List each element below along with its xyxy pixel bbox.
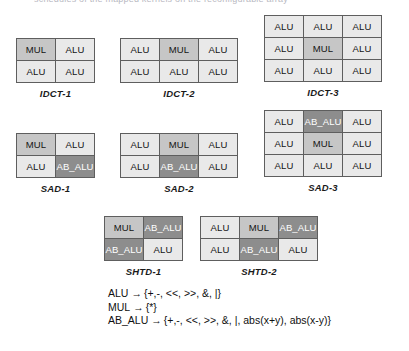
legend-line-0: ALU→{+,-, <<, >>, &, |} — [108, 287, 331, 301]
legend-ops-1: {*} — [146, 301, 157, 313]
group-shtd-1: MULAB_ALUAB_ALUALU SHTD-1 — [104, 216, 183, 277]
cell-idct-3-7: ALU — [304, 60, 342, 81]
cropped-caption-sliver: schedules of the mapped kernels on the r… — [34, 0, 334, 5]
caption-shtd-1: SHTD-1 — [104, 266, 183, 277]
cell-shtd-1-0: MUL — [105, 217, 143, 238]
matrix-idct-1: MULALUALUALU — [16, 38, 95, 83]
legend-name-1: MUL — [108, 301, 130, 313]
right-arrow-icon: → — [128, 287, 144, 299]
right-arrow-icon: → — [148, 314, 164, 326]
group-idct-2: ALUMULALUALUALUALU IDCT-2 — [120, 38, 238, 99]
matrix-idct-3: ALUALUALUALUMULALUALUALUALU — [264, 15, 382, 82]
cell-sad-2-2: ALU — [199, 134, 237, 155]
cell-idct-2-5: ALU — [199, 61, 237, 82]
group-sad-2: ALUMULALUALUAB_ALUALU SAD-2 — [120, 133, 238, 194]
cell-idct-3-4: MUL — [304, 38, 342, 59]
legend-line-1: MUL→{*} — [108, 301, 331, 315]
cell-idct-3-8: ALU — [343, 60, 381, 81]
cell-shtd-2-3: ALU — [201, 239, 239, 260]
caption-shtd-2: SHTD-2 — [200, 266, 318, 277]
cell-idct-3-0: ALU — [265, 16, 303, 37]
group-idct-3: ALUALUALUALUMULALUALUALUALU IDCT-3 — [264, 15, 382, 98]
cell-shtd-1-1: AB_ALU — [144, 217, 182, 238]
cell-idct-1-3: ALU — [56, 61, 94, 82]
matrix-shtd-2: ALUMULAB_ALUALUAB_ALUALU — [200, 216, 318, 261]
cell-sad-3-3: ALU — [265, 133, 303, 154]
cell-shtd-2-5: ALU — [279, 239, 317, 260]
cell-idct-2-3: ALU — [121, 61, 159, 82]
cell-idct-3-1: ALU — [304, 16, 342, 37]
caption-sad-2: SAD-2 — [120, 183, 238, 194]
legend-line-2: AB_ALU→{+,-, <<, >>, &, |, abs(x+y), abs… — [108, 314, 331, 328]
group-idct-1: MULALUALUALU IDCT-1 — [16, 38, 95, 99]
cell-idct-3-3: ALU — [265, 38, 303, 59]
cell-idct-3-2: ALU — [343, 16, 381, 37]
cell-idct-2-2: ALU — [199, 39, 237, 60]
cell-sad-3-2: ALU — [343, 111, 381, 132]
cell-shtd-2-0: ALU — [201, 217, 239, 238]
cell-sad-3-0: ALU — [265, 111, 303, 132]
group-shtd-2: ALUMULAB_ALUALUAB_ALUALU SHTD-2 — [200, 216, 318, 277]
cell-idct-1-1: ALU — [56, 39, 94, 60]
cell-shtd-2-1: MUL — [240, 217, 278, 238]
cell-shtd-1-3: ALU — [144, 239, 182, 260]
legend-ops-2: {+,-, <<, >>, &, |, abs(x+y), abs(x-y)} — [164, 314, 331, 326]
cell-sad-3-8: ALU — [343, 155, 381, 176]
cell-idct-2-4: ALU — [160, 61, 198, 82]
cell-sad-3-1: AB_ALU — [304, 111, 342, 132]
matrix-sad-2: ALUMULALUALUAB_ALUALU — [120, 133, 238, 178]
caption-sad-3: SAD-3 — [264, 182, 382, 193]
cell-sad-2-4: AB_ALU — [160, 156, 198, 177]
cell-idct-2-1: MUL — [160, 39, 198, 60]
cell-sad-2-1: MUL — [160, 134, 198, 155]
caption-idct-3: IDCT-3 — [264, 87, 382, 98]
cell-sad-3-6: ALU — [265, 155, 303, 176]
cell-idct-1-0: MUL — [17, 39, 55, 60]
legend-ops-0: {+,-, <<, >>, &, |} — [144, 287, 221, 299]
cell-sad-3-4: MUL — [304, 133, 342, 154]
caption-idct-1: IDCT-1 — [16, 88, 95, 99]
matrix-shtd-1: MULAB_ALUAB_ALUALU — [104, 216, 183, 261]
cell-shtd-2-4: AB_ALU — [240, 239, 278, 260]
cell-idct-1-2: ALU — [17, 61, 55, 82]
cell-sad-1-1: ALU — [56, 134, 94, 155]
matrix-sad-1: MULALUALUAB_ALU — [16, 133, 95, 178]
cell-sad-2-0: ALU — [121, 134, 159, 155]
figure-canvas: schedules of the mapped kernels on the r… — [0, 0, 409, 351]
cell-sad-1-0: MUL — [17, 134, 55, 155]
legend-name-0: ALU — [108, 287, 128, 299]
group-sad-3: ALUAB_ALUALUALUMULALUALUALUALU SAD-3 — [264, 110, 382, 193]
operation-legend: ALU→{+,-, <<, >>, &, |}MUL→{*}AB_ALU→{+,… — [108, 287, 331, 328]
cell-idct-3-5: ALU — [343, 38, 381, 59]
cell-sad-2-3: ALU — [121, 156, 159, 177]
right-arrow-icon: → — [130, 301, 146, 313]
cell-sad-2-5: ALU — [199, 156, 237, 177]
cell-sad-1-2: ALU — [17, 156, 55, 177]
cell-idct-2-0: ALU — [121, 39, 159, 60]
cropped-caption-text: schedules of the mapped kernels on the r… — [34, 0, 288, 4]
cell-sad-3-7: ALU — [304, 155, 342, 176]
cell-shtd-1-2: AB_ALU — [105, 239, 143, 260]
cell-sad-1-3: AB_ALU — [56, 156, 94, 177]
group-sad-1: MULALUALUAB_ALU SAD-1 — [16, 133, 95, 194]
caption-idct-2: IDCT-2 — [120, 88, 238, 99]
matrix-sad-3: ALUAB_ALUALUALUMULALUALUALUALU — [264, 110, 382, 177]
cell-shtd-2-2: AB_ALU — [279, 217, 317, 238]
legend-name-2: AB_ALU — [108, 314, 148, 326]
matrix-idct-2: ALUMULALUALUALUALU — [120, 38, 238, 83]
cell-sad-3-5: ALU — [343, 133, 381, 154]
cell-idct-3-6: ALU — [265, 60, 303, 81]
caption-sad-1: SAD-1 — [16, 183, 95, 194]
